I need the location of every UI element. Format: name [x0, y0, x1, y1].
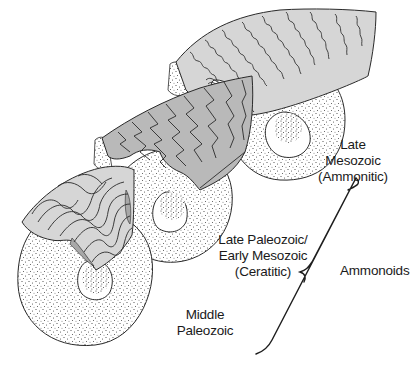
- label-line: Late: [298, 137, 408, 153]
- shell-middle-paleozoic: [18, 166, 153, 345]
- label-late-paleozoic-early-mesozoic: Late Paleozoic/ Early Mesozoic (Ceratiti…: [208, 232, 318, 280]
- label-line: Early Mesozoic: [208, 248, 318, 264]
- label-line: Late Paleozoic/: [208, 232, 318, 248]
- label-line: (Ammonitic): [298, 169, 408, 185]
- label-line: (Ceratitic): [208, 264, 318, 280]
- label-line: Paleozoic: [160, 323, 250, 339]
- label-middle-paleozoic: Middle Paleozoic: [160, 307, 250, 339]
- label-line: Mesozoic: [298, 153, 408, 169]
- group-label: Ammonoids: [340, 263, 420, 279]
- umbilicus: [159, 192, 185, 220]
- label-late-mesozoic: Late Mesozoic (Ammonitic): [298, 137, 408, 185]
- label-line: Middle: [160, 307, 250, 323]
- label-ammonoids: Ammonoids: [340, 263, 420, 279]
